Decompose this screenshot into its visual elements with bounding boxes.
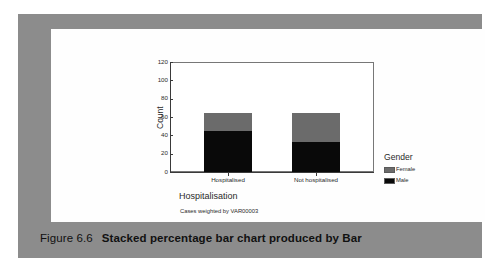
legend-swatch-female-icon bbox=[384, 167, 395, 173]
y-axis-tick-label: 80 bbox=[146, 95, 168, 101]
y-axis-title: Count bbox=[155, 106, 165, 129]
y-axis-tick-label-wrap: 120 bbox=[143, 59, 168, 67]
bar-group bbox=[292, 62, 340, 172]
legend-item-female: Female bbox=[384, 167, 456, 173]
x-axis-category-label: Hospitalised bbox=[198, 177, 258, 183]
y-axis-tick-label-wrap: 20 bbox=[143, 150, 168, 158]
y-axis-tick-label: 40 bbox=[146, 132, 168, 138]
scanned-page: 0 20 40 60 80 bbox=[0, 0, 500, 273]
figure-caption-band: Figure 6.6Stacked percentage bar chart p… bbox=[18, 222, 482, 258]
y-axis-tick-label-wrap: 40 bbox=[143, 132, 168, 140]
x-axis-title: Hospitalisation bbox=[179, 191, 238, 201]
y-axis-tick-label-wrap: 0 bbox=[143, 169, 168, 177]
y-axis-tick-label-wrap: 80 bbox=[143, 95, 168, 103]
y-axis-tick-label: 20 bbox=[146, 150, 168, 156]
bar-segment-female bbox=[204, 113, 252, 130]
legend-title: Gender bbox=[384, 153, 456, 162]
y-axis-tick bbox=[170, 99, 173, 100]
figure-frame: 0 20 40 60 80 bbox=[18, 14, 482, 258]
legend-swatch-male-icon bbox=[384, 178, 395, 184]
figure-caption: Figure 6.6Stacked percentage bar chart p… bbox=[40, 232, 362, 244]
legend-label-male: Male bbox=[396, 178, 409, 184]
bar-segment-male bbox=[204, 131, 252, 172]
bar-segment-male bbox=[292, 142, 340, 172]
bar-segment-female bbox=[292, 113, 340, 142]
plot-frame bbox=[170, 62, 374, 172]
legend-item-male: Male bbox=[384, 178, 456, 184]
x-axis-line bbox=[170, 172, 374, 173]
chart-legend: Gender Female Male bbox=[384, 153, 456, 184]
figure-caption-label: Figure 6.6 bbox=[40, 232, 93, 244]
y-axis-tick-label: 0 bbox=[146, 169, 168, 175]
y-axis-tick-label-wrap: 100 bbox=[143, 77, 168, 85]
chart-panel: 0 20 40 60 80 bbox=[51, 29, 485, 222]
y-axis-tick bbox=[170, 80, 173, 81]
chart-footnote: Cases weighted by VAR00003 bbox=[180, 208, 258, 214]
y-axis-tick-label: 100 bbox=[146, 77, 168, 83]
figure-caption-title: Stacked percentage bar chart produced by… bbox=[102, 232, 362, 244]
stacked-bar-chart: 0 20 40 60 80 bbox=[51, 29, 485, 222]
y-axis-tick bbox=[170, 135, 173, 136]
y-axis-tick bbox=[170, 117, 173, 118]
y-axis-tick bbox=[170, 154, 173, 155]
y-axis-tick-label: 120 bbox=[146, 59, 168, 65]
bar-group bbox=[204, 62, 252, 172]
legend-label-female: Female bbox=[396, 167, 415, 173]
y-axis-tick bbox=[170, 172, 173, 173]
x-axis-category-label: Not hospitalised bbox=[283, 177, 349, 183]
y-axis-tick bbox=[170, 62, 173, 63]
